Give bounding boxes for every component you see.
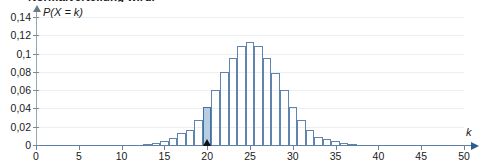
x-axis-tick-label: 40 [373, 150, 385, 162]
histogram-bar [306, 130, 315, 145]
y-axis-tick-label: 0,06 [11, 84, 31, 96]
histogram-bar [314, 137, 323, 145]
plot-area: 00,020,040,060,080,10,120,14 05101520253… [0, 0, 490, 167]
x-axis-tick-label: 35 [330, 150, 342, 162]
x-axis-tick-label: 15 [159, 150, 171, 162]
y-axis-tick-label: 0,08 [11, 66, 31, 78]
histogram-bar [237, 46, 246, 145]
x-axis-title: k [466, 126, 472, 138]
y-axis-tick-label: 0,14 [11, 11, 31, 23]
histogram-bar [211, 90, 220, 145]
x-axis-tick-label: 30 [287, 150, 299, 162]
y-axis-tick [33, 17, 39, 18]
histogram-bar [169, 138, 178, 145]
y-axis-tick [33, 72, 39, 73]
y-axis-tick-label: 0,1 [16, 48, 31, 60]
x-axis-tick-label: 45 [415, 150, 427, 162]
x-axis-tick-label: 0 [33, 150, 39, 162]
histogram-bar [177, 133, 186, 145]
y-axis-tick [33, 35, 39, 36]
y-axis-tick-label: 0,04 [11, 102, 31, 114]
x-axis-line [36, 145, 473, 146]
gridline [36, 35, 464, 36]
histogram-bar [297, 120, 306, 145]
histogram-bar [220, 72, 229, 145]
histogram-bar [271, 73, 280, 145]
histogram-bar [194, 120, 203, 145]
x-axis-arrow-icon [471, 142, 479, 150]
y-axis-tick [33, 127, 39, 128]
y-axis-tick-label: 0,02 [11, 121, 31, 133]
histogram-bar [186, 130, 195, 145]
histogram-bar [280, 90, 289, 145]
gridline [36, 17, 464, 18]
x-axis-tick-label: 5 [76, 150, 82, 162]
histogram-bar [254, 46, 263, 145]
y-axis-tick-label: 0,12 [11, 29, 31, 41]
y-axis-tick [33, 54, 39, 55]
highlight-triangle-marker-icon [203, 139, 211, 146]
y-axis-arrow-icon [33, 5, 41, 12]
chart-root: Normalverteilung wird. 00,020,040,060,08… [0, 0, 490, 167]
histogram-bar [289, 107, 298, 145]
x-axis-tick-label: 10 [116, 150, 128, 162]
histogram-bar [246, 42, 255, 145]
y-axis-tick-label: 0 [25, 139, 31, 151]
y-axis-title: P(X = k) [43, 6, 83, 18]
histogram-bar [229, 58, 238, 145]
x-axis-tick-label: 50 [458, 150, 470, 162]
x-axis-tick-label: 25 [244, 150, 256, 162]
x-axis-tick-label: 20 [201, 150, 213, 162]
y-axis-line [36, 10, 37, 145]
y-axis-tick [33, 90, 39, 91]
histogram-bar [263, 58, 272, 145]
y-axis-tick [33, 108, 39, 109]
